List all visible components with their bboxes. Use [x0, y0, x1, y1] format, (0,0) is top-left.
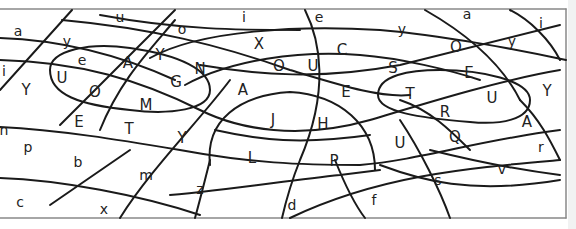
- page-edge: [568, 0, 576, 229]
- cell-letter: E: [341, 83, 350, 101]
- cell-letter: U: [308, 57, 319, 75]
- cell-letter: c: [16, 194, 24, 210]
- cell-letter: u: [116, 9, 125, 25]
- cell-letter: i: [539, 15, 543, 31]
- cell-letter: o: [178, 21, 187, 37]
- cell-letter: U: [487, 89, 498, 107]
- cell-letter: X: [254, 35, 264, 53]
- cell-letter: y: [398, 21, 406, 37]
- cell-letter: f: [372, 192, 378, 208]
- cell-letter: Q: [449, 128, 461, 146]
- cell-letter: v: [498, 161, 506, 177]
- cell-letter: T: [123, 120, 134, 138]
- cell-letter: U: [395, 134, 406, 152]
- cell-letter: z: [196, 181, 203, 197]
- cell-letter: x: [100, 201, 108, 217]
- cell-letter: H: [317, 115, 328, 133]
- cell-letter: a: [14, 23, 23, 39]
- cell-letter: Y: [176, 129, 187, 147]
- cell-letter: i: [2, 63, 6, 79]
- cell-letter: G: [170, 73, 182, 91]
- cell-letter: M: [140, 96, 153, 114]
- cell-letter: O: [89, 83, 101, 101]
- cell-letter: S: [388, 59, 398, 77]
- cell-letter: C: [337, 41, 347, 59]
- puzzle-drawing: auoieyaiyYXCOyeANOUSEiUGYOAETUYMREJHATnY…: [0, 0, 576, 229]
- cell-letter: N: [194, 60, 205, 78]
- cell-letter: O: [273, 57, 285, 75]
- cell-letter: O: [450, 38, 462, 56]
- cell-letter: i: [242, 9, 246, 25]
- cell-letter: s: [434, 172, 441, 188]
- cell-letter: A: [123, 54, 134, 72]
- cell-letter: R: [440, 103, 450, 121]
- cell-letter: Y: [541, 82, 552, 100]
- cell-letter: T: [404, 85, 415, 103]
- cell-letter: n: [0, 122, 8, 138]
- cell-letter: P: [329, 152, 338, 170]
- cell-letter: p: [24, 139, 33, 155]
- cell-letter: a: [463, 6, 472, 22]
- cell-letter: b: [74, 154, 83, 170]
- cell-letter: J: [270, 111, 275, 129]
- cell-letter: A: [522, 113, 533, 131]
- cell-letter: E: [74, 113, 83, 131]
- letter-grid-puzzle: auoieyaiyYXCOyeANOUSEiUGYOAETUYMREJHATnY…: [0, 0, 576, 229]
- cell-letter: e: [315, 9, 324, 25]
- grid-lines: [0, 10, 566, 218]
- cell-letter: Y: [20, 81, 31, 99]
- cell-letter: r: [538, 139, 544, 155]
- cell-letter: y: [508, 33, 516, 49]
- cell-letter: L: [248, 149, 257, 167]
- cell-letter: m: [139, 167, 153, 183]
- cell-letter: E: [464, 64, 473, 82]
- cell-letter: y: [63, 33, 71, 49]
- cell-letter: Y: [154, 46, 165, 64]
- cell-letter: e: [78, 52, 87, 68]
- cell-letter: d: [288, 197, 297, 213]
- cell-letter: U: [57, 69, 68, 87]
- cell-letter: A: [238, 81, 249, 99]
